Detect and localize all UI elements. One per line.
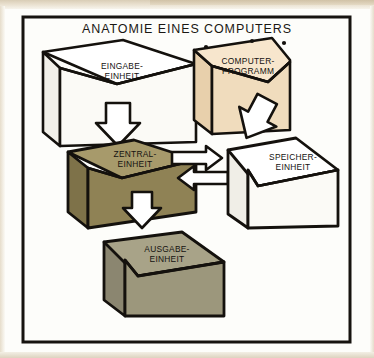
box-ausgabe-einheit [104, 232, 224, 316]
computer-anatomy-diagram [0, 0, 374, 358]
box-speicher-einheit [228, 138, 338, 228]
box-programm-corner-dot-right [282, 41, 286, 45]
scanned-page: ANATOMIE EINES COMPUTERS EINGABE- EINHEI… [0, 0, 374, 358]
box-programm-corner-dot-mid [250, 39, 254, 43]
box-eingabe-side [43, 52, 60, 146]
box-zentral-side [68, 152, 88, 228]
diagram-title: ANATOMIE EINES COMPUTERS [0, 22, 374, 36]
box-programm-corner-dot-left [204, 45, 208, 49]
